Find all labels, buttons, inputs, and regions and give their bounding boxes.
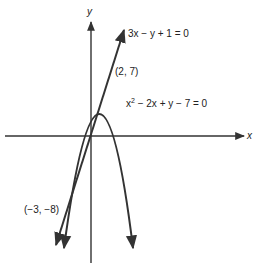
parabola-eq-rest: − 2x + y − 7 = 0	[135, 98, 208, 109]
point-label-upper: (2, 7)	[115, 66, 138, 77]
line-equation-label: 3x − y + 1 = 0	[128, 28, 189, 39]
graph-canvas: y x 3x − y + 1 = 0 (2, 7) x2 − 2x + y − …	[0, 0, 260, 271]
y-axis-label: y	[86, 6, 93, 17]
parabola-curve	[64, 114, 133, 248]
point-label-lower: (−3, −8)	[24, 204, 59, 215]
x-axis-label: x	[246, 130, 253, 141]
parabola-equation-label: x2 − 2x + y − 7 = 0	[126, 97, 208, 109]
